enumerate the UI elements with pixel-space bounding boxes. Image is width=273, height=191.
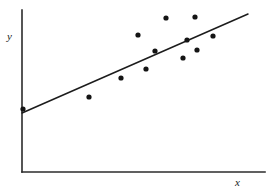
data-point <box>86 94 91 99</box>
data-point <box>192 14 197 19</box>
data-point <box>118 75 123 80</box>
data-point <box>210 33 215 38</box>
x-axis-label: x <box>234 176 240 188</box>
data-point <box>20 106 25 111</box>
regression-line <box>22 14 248 113</box>
data-point <box>152 48 157 53</box>
data-point <box>163 15 168 20</box>
y-axis-label: y <box>6 30 12 42</box>
plot-canvas: y x <box>0 0 273 191</box>
data-point <box>180 55 185 60</box>
data-point <box>143 66 148 71</box>
scatter-plot-figure: y x <box>0 0 273 191</box>
data-point <box>184 37 189 42</box>
data-point <box>135 32 140 37</box>
data-point <box>194 47 199 52</box>
